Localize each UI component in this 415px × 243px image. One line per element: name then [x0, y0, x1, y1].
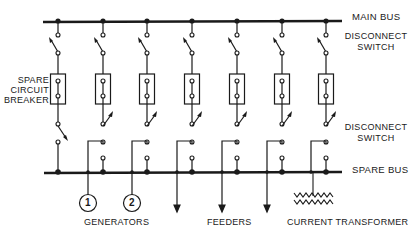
spare-breaker-label-line3: BREAKER [0, 95, 49, 105]
generator-1-number: 1 [80, 198, 96, 208]
top-disconnect-switch-label-line2: SWITCH [337, 42, 415, 52]
spare-breaker-label-line1: SPARE [0, 75, 49, 85]
generators-label: GENERATORS [84, 217, 149, 227]
main-bus-label: MAIN BUS [352, 12, 400, 22]
generator-2-number: 2 [124, 198, 140, 208]
feeder-arrows [174, 172, 270, 212]
spare-breaker-column [49, 18, 68, 174]
top-disconnect-switch-label-line1: DISCONNECT [337, 31, 415, 41]
bottom-disconnect-switch-label-line2: SWITCH [337, 133, 415, 143]
spare-breaker-label-line2: CIRCUIT [0, 85, 49, 95]
current-transformer-symbol [294, 172, 333, 204]
bottom-disconnect-switch-label-line1: DISCONNECT [337, 122, 415, 132]
current-transformer-label: CURRENT TRANSFORMER [287, 217, 408, 227]
spare-bus-label: SPARE BUS [352, 165, 408, 175]
circuit-columns [86, 18, 336, 174]
feeders-label: FEEDERS [207, 217, 252, 227]
